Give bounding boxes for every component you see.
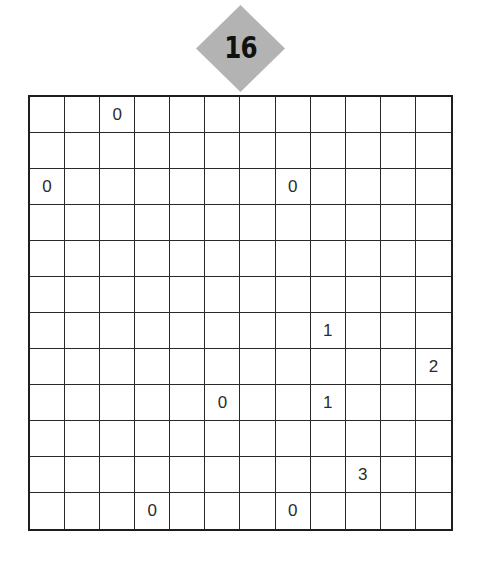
grid-cell[interactable] [135,385,170,421]
grid-cell[interactable] [416,205,451,241]
grid-cell[interactable] [100,133,135,169]
grid-cell[interactable] [205,97,240,133]
grid-cell[interactable] [311,205,346,241]
grid-cell[interactable] [416,457,451,493]
grid-cell[interactable] [416,277,451,313]
grid-cell[interactable] [276,241,311,277]
grid-cell-clue[interactable]: 3 [346,457,381,493]
grid-cell[interactable] [381,241,416,277]
grid-cell[interactable] [416,493,451,529]
grid-cell[interactable] [381,205,416,241]
grid-cell[interactable] [30,97,65,133]
grid-cell[interactable] [416,385,451,421]
grid-cell[interactable] [65,133,100,169]
grid-cell-clue[interactable]: 0 [30,169,65,205]
grid-cell[interactable] [30,421,65,457]
grid-cell[interactable] [381,133,416,169]
grid-cell-clue[interactable]: 0 [135,493,170,529]
grid-cell[interactable] [170,133,205,169]
grid-cell[interactable] [170,421,205,457]
grid-cell[interactable] [205,205,240,241]
grid-cell[interactable] [30,385,65,421]
grid-cell[interactable] [100,169,135,205]
grid-cell[interactable] [311,169,346,205]
grid-cell[interactable] [240,277,275,313]
grid-cell[interactable] [240,97,275,133]
grid-cell[interactable] [135,349,170,385]
grid-cell[interactable] [100,421,135,457]
grid-cell[interactable] [135,241,170,277]
grid-cell[interactable] [311,457,346,493]
grid-cell[interactable] [311,133,346,169]
grid-cell[interactable] [346,277,381,313]
grid-cell[interactable] [135,313,170,349]
grid-cell[interactable] [170,277,205,313]
grid-cell[interactable] [276,313,311,349]
grid-cell-clue[interactable]: 0 [276,493,311,529]
grid-cell[interactable] [170,97,205,133]
grid-cell[interactable] [170,313,205,349]
grid-cell[interactable] [240,241,275,277]
grid-cell-clue[interactable]: 2 [416,349,451,385]
grid-cell[interactable] [311,493,346,529]
grid-cell[interactable] [311,421,346,457]
grid-cell[interactable] [65,457,100,493]
grid-cell[interactable] [381,349,416,385]
grid-cell[interactable] [205,169,240,205]
grid-cell[interactable] [311,349,346,385]
grid-cell[interactable] [381,169,416,205]
grid-cell[interactable] [30,313,65,349]
grid-cell[interactable] [135,457,170,493]
grid-cell[interactable] [65,205,100,241]
grid-cell[interactable] [100,457,135,493]
grid-cell[interactable] [135,169,170,205]
grid-cell[interactable] [30,493,65,529]
grid-cell[interactable] [276,97,311,133]
grid-cell-clue[interactable]: 1 [311,385,346,421]
grid-cell[interactable] [205,349,240,385]
grid-cell[interactable] [100,205,135,241]
grid-cell[interactable] [346,385,381,421]
grid-cell[interactable] [100,493,135,529]
grid-cell[interactable] [346,169,381,205]
grid-cell[interactable] [240,313,275,349]
grid-cell[interactable] [416,169,451,205]
grid-cell[interactable] [170,385,205,421]
grid-cell[interactable] [205,277,240,313]
grid-cell[interactable] [346,133,381,169]
grid-cell[interactable] [311,277,346,313]
grid-cell[interactable] [381,385,416,421]
grid-cell[interactable] [30,349,65,385]
grid-cell[interactable] [170,205,205,241]
grid-cell[interactable] [205,457,240,493]
grid-cell[interactable] [416,241,451,277]
grid-cell[interactable] [30,133,65,169]
grid-cell[interactable] [100,385,135,421]
grid-cell[interactable] [170,169,205,205]
grid-cell[interactable] [276,205,311,241]
grid-cell[interactable] [381,313,416,349]
grid-cell[interactable] [170,349,205,385]
grid-cell[interactable] [100,277,135,313]
grid-cell[interactable] [65,493,100,529]
grid-cell[interactable] [276,133,311,169]
grid-cell[interactable] [205,133,240,169]
grid-cell[interactable] [276,277,311,313]
grid-cell[interactable] [30,241,65,277]
grid-cell-clue[interactable]: 0 [100,97,135,133]
grid-cell[interactable] [205,493,240,529]
grid-cell[interactable] [65,313,100,349]
grid-cell[interactable] [381,97,416,133]
grid-cell[interactable] [346,97,381,133]
grid-cell[interactable] [135,133,170,169]
grid-cell[interactable] [100,241,135,277]
grid-cell[interactable] [135,277,170,313]
grid-cell[interactable] [381,277,416,313]
grid-cell[interactable] [135,205,170,241]
grid-cell[interactable] [346,313,381,349]
grid-cell[interactable] [346,493,381,529]
grid-cell[interactable] [65,169,100,205]
grid-cell[interactable] [135,421,170,457]
grid-cell[interactable] [30,205,65,241]
grid-cell[interactable] [240,349,275,385]
